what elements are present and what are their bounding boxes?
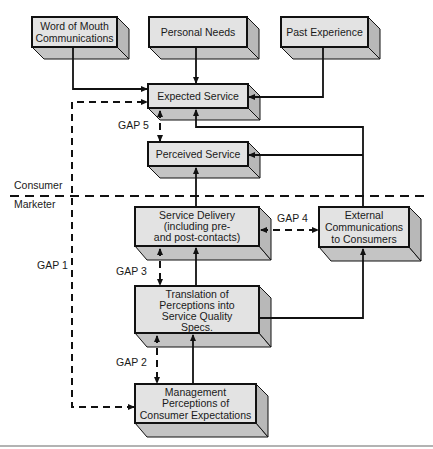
box-perceived-service: Perceived Service (148, 142, 260, 178)
box-word-of-mouth: Word of Mouth Communications (32, 17, 129, 59)
box-label: External (345, 209, 384, 221)
box-label: Personal Needs (161, 26, 236, 38)
box-label: Consumer Expectations (140, 409, 251, 421)
marketer-label: Marketer (14, 198, 56, 210)
box-label: Past Experience (286, 26, 363, 38)
gap4-label: GAP 4 (277, 212, 308, 224)
service-quality-gap-model: Word of Mouth Communications Personal Ne… (0, 0, 433, 449)
box-label: Perceived Service (156, 148, 241, 160)
box-management-perceptions: Management Perceptions of Consumer Expec… (135, 384, 268, 437)
box-service-delivery: Service Delivery (including pre- and pos… (135, 207, 271, 260)
consumer-label: Consumer (14, 179, 63, 191)
box-label: to Consumers (331, 233, 396, 245)
box-label: Expected Service (157, 90, 239, 102)
gap3-label: GAP 3 (116, 265, 147, 277)
box-label: and post-contacts) (154, 231, 240, 243)
box-expected-service: Expected Service (148, 84, 260, 120)
gap2-label: GAP 2 (116, 356, 147, 368)
box-label: Word of Mouth (40, 20, 109, 32)
box-label: Communications (35, 32, 113, 44)
box-label: Specs. (181, 321, 213, 333)
box-personal-needs: Personal Needs (149, 17, 259, 59)
gap5-label: GAP 5 (118, 119, 149, 131)
box-past-experience: Past Experience (281, 17, 380, 59)
box-external-communications: External Communications to Consumers (319, 207, 421, 261)
box-translation-specs: Translation of Perceptions into Service … (135, 286, 271, 347)
gap1-label: GAP 1 (37, 259, 68, 271)
box-label: Perceptions of (162, 397, 229, 409)
box-label: Communications (325, 221, 403, 233)
